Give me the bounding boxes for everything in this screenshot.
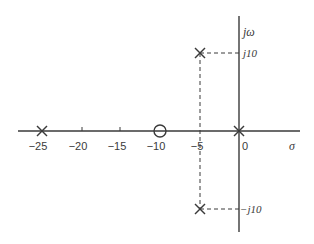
tick-label-neg10: −10: [147, 140, 166, 152]
s-plane-diagram: −25 −20 −15 −10 −5 0 σ jω j10 −j10: [0, 0, 314, 244]
tick-label-neg20: −20: [69, 140, 88, 152]
tick-label-neg5: −5: [191, 140, 204, 152]
imag-tick-neg-j10: −j10: [240, 203, 262, 215]
tick-label-neg15: −15: [108, 140, 127, 152]
tick-label-0: 0: [242, 140, 248, 152]
tick-label-neg25: −25: [29, 140, 48, 152]
sigma-axis-label: σ: [289, 139, 296, 153]
jomega-axis-label: jω: [241, 25, 255, 39]
imag-tick-j10: j10: [241, 47, 258, 59]
